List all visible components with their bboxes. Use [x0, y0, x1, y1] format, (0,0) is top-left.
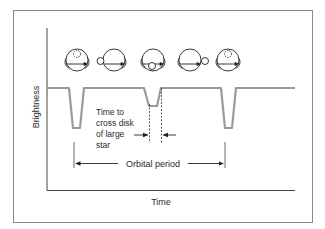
binary-star-icon-pos3 [141, 49, 165, 71]
x-axis-label: Time [151, 197, 171, 207]
svg-text:Time to: Time to [96, 107, 124, 117]
y-axis-label: Brightness [31, 85, 41, 128]
binary-star-icon-pos4 [178, 49, 209, 71]
binary-star-icon-pos5 [216, 49, 240, 71]
eclipsing-binary-diagram: Brightness Time Time to cross disk of la… [0, 0, 325, 229]
svg-text:cross disk: cross disk [96, 118, 135, 128]
light-curve [47, 88, 295, 128]
star-positions [65, 49, 240, 71]
svg-text:of large: of large [96, 129, 125, 139]
binary-star-icon-pos1 [65, 49, 89, 71]
orbital-period-label: Orbital period [126, 159, 180, 169]
binary-star-icon-pos2 [97, 49, 126, 71]
crossing-time-label: Time to cross disk of large star [96, 107, 135, 150]
svg-text:star: star [96, 140, 110, 150]
crossing-time-guides [134, 88, 176, 143]
